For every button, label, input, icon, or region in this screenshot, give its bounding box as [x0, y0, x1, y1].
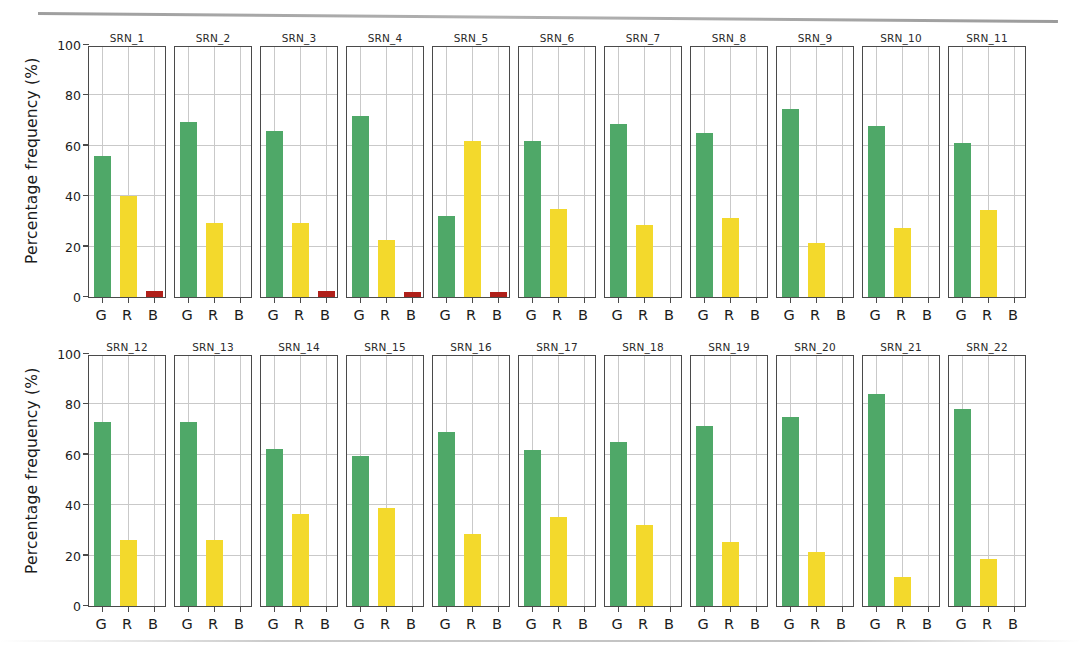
x-axis-tick [790, 606, 791, 612]
panel-title: SRN_2 [174, 30, 252, 46]
panel-title: SRN_1 [88, 30, 166, 46]
plot-area: 020406080100 [88, 46, 166, 298]
x-axis-tick-label: G [89, 307, 113, 323]
x-axis-tick-label: B [313, 307, 337, 323]
x-axis-tick [102, 606, 103, 612]
bar-group [261, 47, 337, 297]
bar-r [808, 552, 825, 606]
chart-panel: SRN_10GRB [862, 30, 940, 323]
x-axis-tick-label: G [347, 307, 371, 323]
chart-panel: SRN_8GRB [690, 30, 768, 323]
x-axis-tick [618, 606, 619, 612]
panel-title: SRN_6 [518, 30, 596, 46]
x-axis-tick [498, 606, 499, 612]
bar-b [490, 292, 507, 297]
plot-area [260, 355, 338, 607]
bar-group [949, 47, 1025, 297]
y-axis-tick-label: 60 [47, 139, 81, 154]
x-axis-tick [558, 606, 559, 612]
bar-r [894, 228, 911, 297]
bar-g [696, 426, 713, 606]
x-axis-labels: GRB [690, 616, 768, 632]
bar-r [206, 223, 223, 297]
bar-r [206, 540, 223, 606]
y-axis-tick-label: 40 [47, 189, 81, 204]
x-axis-labels: GRB [432, 307, 510, 323]
plot-area [862, 355, 940, 607]
plot-area [776, 46, 854, 298]
x-axis-tick [842, 297, 843, 303]
chart-panel: SRN_3GRB [260, 30, 338, 323]
x-axis-tick [240, 297, 241, 303]
x-axis-tick-label: G [863, 307, 887, 323]
bar-group [691, 47, 767, 297]
y-axis-tick [83, 353, 89, 354]
panel-title: SRN_17 [518, 339, 596, 355]
chart-panel: SRN_20GRB [776, 339, 854, 632]
x-axis-tick [756, 606, 757, 612]
x-axis-tick [730, 606, 731, 612]
x-axis-labels: GRB [432, 616, 510, 632]
x-axis-tick [928, 297, 929, 303]
x-axis-tick-label: R [717, 616, 741, 632]
x-axis-tick-label: G [433, 616, 457, 632]
x-axis-tick-label: R [115, 307, 139, 323]
x-axis-tick-label: R [287, 307, 311, 323]
x-axis-tick [154, 297, 155, 303]
x-axis-tick-label: G [949, 616, 973, 632]
x-axis-labels: GRB [346, 616, 424, 632]
x-axis-labels: GRB [346, 307, 424, 323]
chart-panel: SRN_22GRB [948, 339, 1026, 632]
small-multiples-bar-chart-figure: Percentage frequency (%) Percentage freq… [0, 0, 1081, 654]
plot-area [862, 46, 940, 298]
x-axis-tick-label: B [485, 307, 509, 323]
x-axis-tick-label: R [115, 616, 139, 632]
x-axis-tick-label: R [373, 307, 397, 323]
x-axis-tick [326, 606, 327, 612]
x-axis-tick [446, 606, 447, 612]
bar-g [954, 143, 971, 297]
x-axis-tick-label: G [519, 307, 543, 323]
y-axis-tick-label: 0 [47, 290, 81, 305]
x-axis-tick [326, 297, 327, 303]
bar-group [777, 47, 853, 297]
bar-g [954, 409, 971, 606]
chart-panel: SRN_12020406080100GRB [88, 339, 166, 632]
plot-area [174, 46, 252, 298]
y-axis-label-row-1: Percentage frequency (%) [23, 74, 41, 264]
x-axis-tick [128, 297, 129, 303]
x-axis-tick-label: G [777, 307, 801, 323]
x-axis-tick [704, 297, 705, 303]
bar-group [863, 47, 939, 297]
x-axis-tick-label: G [691, 616, 715, 632]
y-axis-tick-label: 40 [47, 498, 81, 513]
x-axis-labels: GRB [948, 307, 1026, 323]
x-axis-tick [1014, 297, 1015, 303]
plot-area: 020406080100 [88, 355, 166, 607]
chart-panel: SRN_7GRB [604, 30, 682, 323]
x-axis-labels: GRB [518, 307, 596, 323]
bar-r [980, 559, 997, 606]
scan-artifact-line-bottom [0, 640, 1081, 642]
y-axis-tick-label: 100 [47, 38, 81, 53]
plot-area [432, 355, 510, 607]
x-axis-tick-label: G [261, 307, 285, 323]
x-axis-tick [876, 606, 877, 612]
x-axis-tick-label: R [889, 616, 913, 632]
panel-row-2: SRN_12020406080100GRBSRN_13GRBSRN_14GRBS… [88, 339, 1026, 632]
x-axis-labels: GRB [776, 616, 854, 632]
x-axis-tick-label: B [141, 307, 165, 323]
panel-row-1: SRN_1020406080100GRBSRN_2GRBSRN_3GRBSRN_… [88, 30, 1026, 323]
bar-r [808, 243, 825, 297]
bar-r [722, 218, 739, 297]
bar-g [868, 394, 885, 606]
x-axis-labels: GRB [948, 616, 1026, 632]
plot-area [518, 46, 596, 298]
panel-title: SRN_14 [260, 339, 338, 355]
x-axis-tick-label: B [571, 616, 595, 632]
chart-panel: SRN_11GRB [948, 30, 1026, 323]
bar-g [524, 450, 541, 606]
x-axis-tick-label: G [949, 307, 973, 323]
x-axis-tick-label: B [227, 307, 251, 323]
bar-g [94, 422, 111, 606]
